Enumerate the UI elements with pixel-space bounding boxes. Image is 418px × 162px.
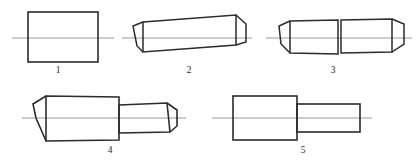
figure-3-chamfer-left (279, 21, 290, 53)
figure-5 (212, 96, 372, 140)
figure-1-label: 1 (48, 66, 68, 76)
figure-2-label: 2 (179, 66, 199, 76)
figure-3-body-right (341, 19, 392, 53)
figure-2-body (143, 15, 236, 52)
figure-5-label: 5 (293, 146, 313, 156)
drawing-sheet: — · —— ·—·— ——·— — —— (0, 0, 418, 162)
figure-2-chamfer-right (236, 15, 246, 45)
technical-drawing-canvas (0, 0, 418, 162)
figure-3-label: 3 (323, 66, 343, 76)
figure-3 (266, 19, 412, 54)
figure-3-body-left (290, 20, 338, 54)
figure-1-body (28, 12, 98, 62)
figure-1 (12, 12, 114, 62)
figure-4 (22, 96, 186, 141)
figure-3-chamfer-right (392, 19, 404, 52)
figure-2-chamfer-left (133, 22, 143, 52)
figure-2 (122, 15, 252, 52)
figure-4-label: 4 (100, 146, 120, 156)
